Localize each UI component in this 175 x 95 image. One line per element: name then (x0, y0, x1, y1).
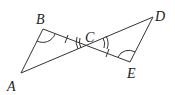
angle-arc-c-right-2 (106, 36, 108, 49)
geometry-diagram: A B C D E (0, 0, 175, 95)
segment-de (130, 17, 153, 62)
label-e: E (126, 66, 136, 81)
label-c: C (85, 30, 95, 45)
segment-ab (21, 29, 43, 73)
angle-arc-e (118, 50, 135, 57)
tick-mark-bc (65, 35, 68, 43)
label-d: D (154, 9, 165, 24)
label-b: B (36, 12, 45, 27)
angle-arc-c-right-1 (103, 38, 105, 48)
angle-arc-c-left-2 (76, 37, 78, 49)
label-a: A (6, 79, 16, 94)
